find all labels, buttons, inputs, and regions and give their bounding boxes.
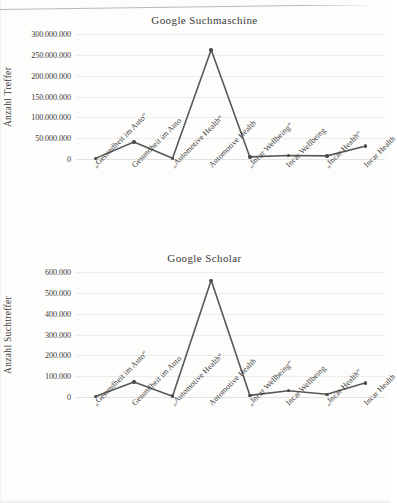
y-axis-tick-label: 250.000.000 [31,50,71,59]
y-axis-tick-label: 500.000 [45,288,71,297]
y-axis-tick-label: 300.000.000 [31,30,71,39]
data-point-marker [132,380,135,383]
x-axis-labels: „Gesundheit im Auto“Gesundheit im Auto„A… [76,159,385,247]
data-point-marker [209,279,212,282]
y-axis-tick-label: 100.000.000 [31,113,71,122]
x-axis-labels: „Gesundheit im Auto“Gesundheit im Auto„A… [76,397,385,485]
data-point-marker [364,381,367,384]
data-point-marker [132,140,135,143]
y-axis-tick-label: 0 [67,393,71,402]
y-axis-tick-label: 50.000.000 [35,134,71,143]
plot-area: Anzahl Suchtreffer 600.000500.000400.000… [0,272,391,397]
y-axis-tick-label: 0 [67,155,71,164]
y-axis-title: Anzahl Treffer [0,34,16,159]
y-axis-ticks: 300.000.000250.000.000200.000.000150.000… [16,34,74,159]
y-axis-tick-label: 200.000.000 [31,71,71,80]
y-axis-title-label: Anzahl Treffer [3,66,13,126]
y-axis-tick-label: 600.000 [45,268,71,277]
chart-google-scholar: Google Scholar Anzahl Suchtreffer 600.00… [0,252,391,503]
scan-artifact-line [0,5,391,14]
data-point-marker [209,48,212,51]
y-axis-tick-label: 200.000 [45,351,71,360]
y-axis-tick-label: 100.000 [45,372,71,381]
chart-title: Google Suchmaschine [0,14,391,26]
chart-google-suchmaschine: Google Suchmaschine Anzahl Treffer 300.0… [0,14,391,252]
y-axis-tick-label: 150.000.000 [31,92,71,101]
y-axis-tick-label: 400.000 [45,309,71,318]
y-axis-title-label: Anzahl Suchtreffer [3,296,13,374]
chart-title: Google Scholar [0,252,391,264]
y-axis-tick-label: 300.000 [45,330,71,339]
y-axis-ticks: 600.000500.000400.000300.000200.000100.0… [16,272,74,397]
y-axis-title: Anzahl Suchtreffer [0,272,16,397]
plot-area: Anzahl Treffer 300.000.000250.000.000200… [0,34,391,159]
